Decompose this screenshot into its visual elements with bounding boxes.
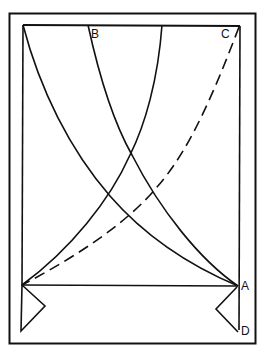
label-a: A — [241, 279, 249, 293]
label-c: C — [221, 27, 230, 41]
outer-frame — [10, 14, 256, 344]
curve-top-to-bottomleft — [22, 25, 162, 285]
inner-right-edge — [239, 26, 240, 330]
inner-left-edge — [22, 25, 23, 286]
inner-top-edge — [23, 25, 240, 26]
diagram-canvas: B C A D — [0, 0, 269, 355]
left-flag — [21, 285, 45, 331]
baseline-a — [22, 285, 238, 286]
dashed-curve-c-to-bottomleft — [22, 27, 239, 285]
label-d: D — [241, 324, 250, 338]
curve-b-to-a — [88, 25, 238, 286]
label-b: B — [91, 27, 99, 41]
right-flag — [216, 287, 238, 332]
